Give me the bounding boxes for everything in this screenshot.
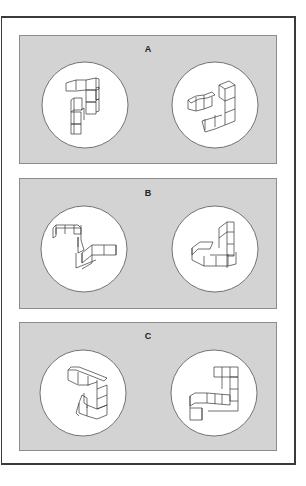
circle-a-right — [172, 62, 258, 148]
circle-a-left — [42, 62, 128, 148]
cube-figures — [0, 0, 306, 486]
circle-c-left — [40, 350, 126, 436]
circle-b-right — [172, 206, 258, 292]
circle-c-right — [171, 350, 257, 436]
